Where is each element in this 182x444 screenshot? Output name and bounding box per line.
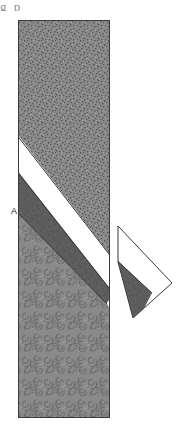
cross-section-diagram: A <box>0 0 182 444</box>
figure-root: g p <box>0 0 182 444</box>
clipped-caption-glyphs: g p <box>0 0 22 11</box>
label-a: A <box>11 206 17 216</box>
detached-wedge <box>114 222 176 324</box>
outcrop-block <box>16 20 112 420</box>
clipped-caption-text: g p <box>0 0 182 11</box>
